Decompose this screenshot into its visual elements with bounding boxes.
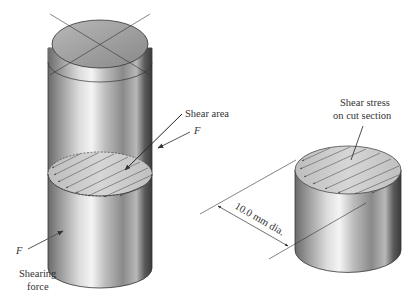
shearing-force-label-2: force [27, 281, 49, 292]
shear-diagram: Shear area F F Shearing force Shear stre… [0, 0, 420, 306]
force-label-top: F [193, 125, 201, 136]
right-section-face [295, 146, 401, 194]
force-label-bottom: F [15, 245, 23, 256]
shear-stress-label-1: Shear stress [340, 97, 390, 108]
shearing-force-label-1: Shearing [19, 268, 57, 279]
force-arrow-top [158, 132, 190, 148]
left-top-face [52, 20, 148, 68]
shear-stress-label-2: on cut section [333, 110, 392, 121]
left-specimen: Shear area F F Shearing force [15, 14, 229, 292]
right-specimen: Shear stress on cut section 10.0 mm dia. [200, 97, 401, 272]
shear-area-label: Shear area [185, 108, 229, 119]
